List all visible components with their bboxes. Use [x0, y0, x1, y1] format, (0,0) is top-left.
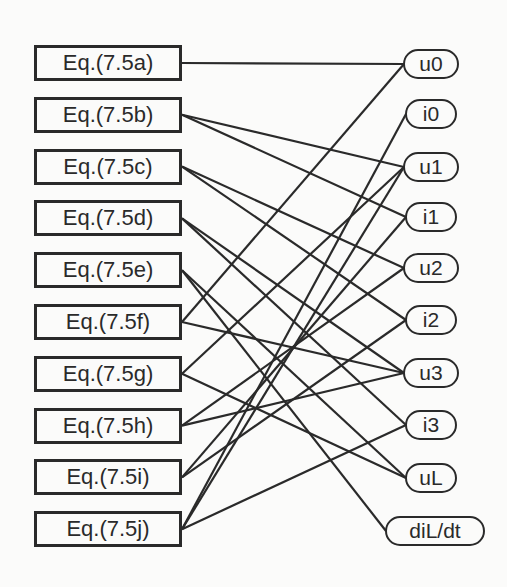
connection-line [182, 63, 404, 64]
equation-box: Eq.(7.5h) [34, 408, 182, 444]
variable-node: u2 [403, 253, 459, 283]
connection-line [182, 64, 404, 322]
connection-line [182, 374, 406, 478]
connection-line [182, 115, 406, 217]
variable-node: u3 [403, 358, 459, 388]
connection-line [182, 167, 404, 374]
variable-node: i2 [405, 305, 457, 335]
equation-box: Eq.(7.5e) [34, 252, 182, 288]
variable-node: i1 [405, 202, 457, 232]
connection-line [182, 167, 404, 268]
variable-node: i0 [405, 99, 457, 129]
equation-box: Eq.(7.5j) [34, 511, 182, 547]
equation-box: Eq.(7.5g) [34, 356, 182, 392]
variable-node: u0 [403, 49, 459, 79]
variable-node: diL/dt [385, 516, 485, 546]
connection-line [182, 167, 404, 529]
equation-box: Eq.(7.5f) [34, 304, 182, 340]
equation-box: Eq.(7.5b) [34, 97, 182, 133]
equation-box: Eq.(7.5d) [34, 200, 182, 236]
connection-line [182, 114, 406, 529]
connection-lines [0, 0, 507, 587]
connection-line [182, 270, 406, 478]
equation-box: Eq.(7.5a) [34, 45, 182, 81]
variable-node: i3 [405, 410, 457, 440]
connection-line [182, 115, 404, 167]
equation-box: Eq.(7.5i) [34, 459, 182, 495]
variable-node: uL [405, 463, 457, 493]
variable-node: u1 [403, 152, 459, 182]
equation-box: Eq.(7.5c) [34, 149, 182, 185]
